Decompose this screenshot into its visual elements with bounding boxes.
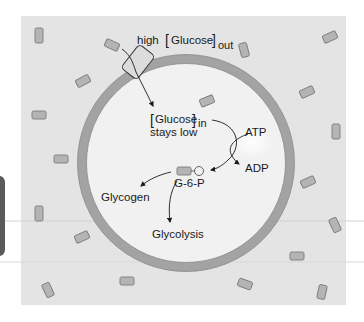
inside-stays-low: stays low	[150, 126, 198, 138]
glucose-molecule	[32, 111, 46, 119]
inside-species: Glucose	[155, 113, 197, 125]
glucose-molecule	[120, 277, 134, 285]
glucose-molecule	[332, 124, 340, 139]
adp-label: ADP	[245, 162, 269, 174]
diagram-canvas: high [ Glucose ] out [ Glucose ] in stay…	[0, 0, 364, 322]
glucose-molecule	[290, 252, 304, 260]
outside-species: Glucose	[171, 34, 213, 46]
outside-subscript: out	[218, 39, 233, 51]
glucose-molecule	[35, 28, 43, 43]
glycolysis-label: Glycolysis	[152, 228, 204, 240]
g6p-molecule	[177, 167, 204, 176]
g6p-label: G-6-P	[174, 177, 205, 189]
bracket-right: ]	[212, 32, 216, 48]
glucose-uptake-diagram: high [ Glucose ] out [ Glucose ] in stay…	[0, 0, 364, 322]
inside-subscript: in	[198, 117, 207, 129]
glycogen-label: Glycogen	[101, 191, 150, 203]
atp-label: ATP	[245, 126, 267, 138]
glucose-molecule	[35, 206, 43, 221]
bracket-left: [	[165, 32, 169, 48]
side-tab-marker	[0, 176, 5, 256]
outside-concentration-label: high	[137, 34, 159, 46]
glucose-molecule	[54, 155, 68, 163]
